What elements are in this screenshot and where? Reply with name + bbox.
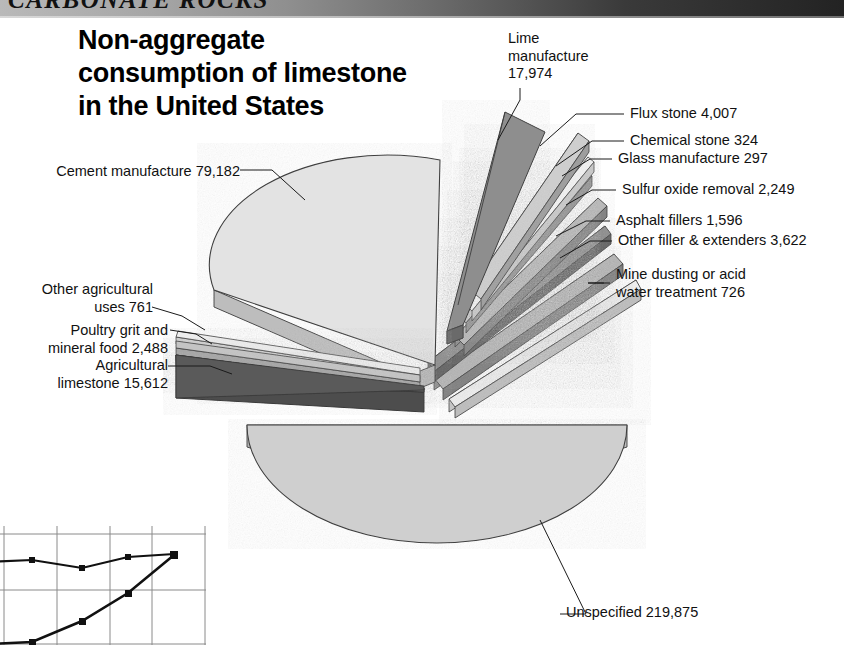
inset-series-2 xyxy=(0,551,178,645)
inset-chart-svg xyxy=(0,516,206,645)
label-chemical-stone: Chemical stone 324 xyxy=(630,132,840,150)
label-flux-stone: Flux stone 4,007 xyxy=(630,105,840,123)
label-cement-manufacture: Cement manufacture 79,182 xyxy=(50,163,240,181)
inset-line-chart-fragment xyxy=(0,516,206,645)
label-poultry-grit: Poultry grit and mineral food 2,488 xyxy=(8,322,168,357)
inset-grid xyxy=(0,526,206,645)
label-sulfur-oxide-removal: Sulfur oxide removal 2,249 xyxy=(622,181,844,199)
label-agricultural-limestone: Agricultural limestone 15,612 xyxy=(8,357,168,392)
label-glass-manufacture: Glass manufacture 297 xyxy=(618,150,843,168)
label-mine-dusting: Mine dusting or acid water treatment 726 xyxy=(616,266,836,301)
pie-slice-unspecified[interactable] xyxy=(247,425,627,543)
page-canvas: CARBONATE ROCKS Non-aggregate consumptio… xyxy=(0,0,844,645)
label-other-filler-extenders: Other filler & extenders 3,622 xyxy=(618,232,844,250)
leader-unspecified xyxy=(540,520,586,614)
inset-series-1 xyxy=(0,551,177,571)
label-lime-manufacture: Lime manufacture 17,974 xyxy=(508,30,618,83)
label-other-agricultural-uses: Other agricultural uses 761 xyxy=(8,281,153,316)
label-asphalt-fillers: Asphalt fillers 1,596 xyxy=(616,212,844,230)
label-unspecified: Unspecified 219,875 xyxy=(566,604,816,622)
